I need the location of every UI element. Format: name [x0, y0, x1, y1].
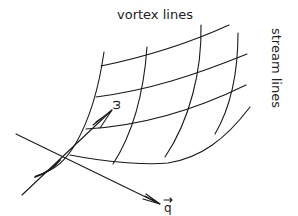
vortex-line-4	[215, 33, 238, 134]
omega-label: ω	[109, 100, 123, 110]
stream-line-2	[96, 54, 247, 97]
omega-arrow-shaft	[22, 110, 112, 195]
q-arrow-head-icon	[143, 194, 160, 204]
diagram-svg: ω q vortex lines stream lines	[0, 0, 298, 216]
stream-line-1	[101, 25, 229, 66]
vortex-line-3	[165, 25, 201, 157]
vortex-lines-label: vortex lines	[117, 7, 193, 22]
stream-line-4	[70, 107, 250, 164]
vortex-line-1	[36, 52, 104, 176]
q-label: q	[164, 201, 172, 215]
omega-vector: ω	[22, 100, 123, 195]
stream-lines	[70, 25, 250, 164]
vortex-stream-diagram: ω q vortex lines stream lines	[0, 0, 298, 216]
stream-lines-label: stream lines	[269, 28, 284, 108]
q-arrow-shaft	[16, 134, 160, 204]
